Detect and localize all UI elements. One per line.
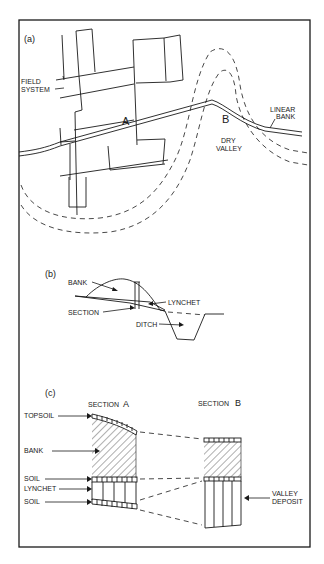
- figure-frame: [19, 20, 310, 547]
- section-a-letter: A: [123, 399, 129, 409]
- soil-lower-label: SOIL: [24, 498, 40, 505]
- section-b-column: [204, 438, 241, 528]
- figure-diagram: (a) FI: [0, 0, 324, 564]
- lynchet-label: LYNCHET: [168, 299, 201, 306]
- linear-bank: [19, 100, 302, 156]
- section-label: SECTION: [68, 309, 99, 316]
- panel-a-map: (a) FI: [19, 29, 308, 233]
- bank-section-label: BANK: [24, 447, 43, 454]
- linear-bank-label-2: BANK: [276, 113, 295, 120]
- panel-b-profile: (b) BANK LYNCHET SECTION DITCH: [45, 269, 224, 340]
- section-a-column: [92, 414, 137, 509]
- bank-label: BANK: [68, 279, 87, 286]
- linear-bank-label: LINEAR: [270, 106, 295, 113]
- panel-c-label: (c): [45, 388, 56, 398]
- ditch-label: DITCH: [136, 321, 157, 328]
- panel-c-sections: (c) SECTION A SECTION B: [24, 388, 303, 528]
- dry-valley-label: DRY: [221, 137, 236, 144]
- panel-a-label: (a): [24, 34, 35, 44]
- panel-b-label: (b): [45, 269, 56, 279]
- field-system-boundaries: [56, 29, 183, 215]
- topsoil-label: TOPSOIL: [24, 412, 54, 419]
- valley-deposit-label: VALLEY: [272, 490, 298, 497]
- valley-deposit-label-2: DEPOSIT: [272, 498, 303, 505]
- point-a-label: A: [122, 115, 130, 127]
- section-a-title: SECTION: [88, 401, 119, 408]
- field-system-label: FIELD: [21, 78, 41, 85]
- point-b-label: B: [222, 113, 229, 125]
- dry-valley-label-2: VALLEY: [216, 145, 242, 152]
- field-system-label-2: SYSTEM: [21, 86, 50, 93]
- section-b-letter: B: [235, 398, 241, 408]
- lynchet-section-label: LYNCHET: [24, 485, 57, 492]
- correlation-lines: [140, 432, 202, 525]
- section-b-title: SECTION: [198, 400, 229, 407]
- soil-upper-label: SOIL: [24, 475, 40, 482]
